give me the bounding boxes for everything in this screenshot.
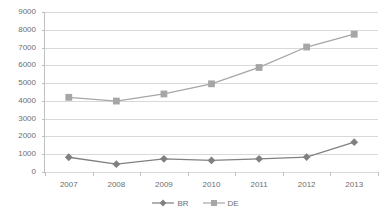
axes bbox=[42, 12, 379, 176]
series-de bbox=[65, 31, 357, 105]
data-point[interactable] bbox=[161, 91, 168, 98]
x-tick-label: 2013 bbox=[334, 181, 374, 189]
y-tick-label: 8000 bbox=[2, 26, 36, 34]
y-tick-label: 2000 bbox=[2, 132, 36, 140]
data-point[interactable] bbox=[208, 157, 216, 165]
legend-label-br: BR bbox=[177, 199, 188, 208]
y-tick-label: 4000 bbox=[2, 97, 36, 105]
data-point[interactable] bbox=[351, 31, 358, 38]
legend-entry-de[interactable]: DE bbox=[203, 198, 239, 208]
x-tick-label: 2011 bbox=[239, 181, 279, 189]
data-point[interactable] bbox=[65, 94, 72, 101]
legend-entry-br[interactable]: BR bbox=[152, 198, 188, 208]
legend-marker-br bbox=[152, 198, 174, 208]
gridlines bbox=[45, 13, 378, 173]
y-tick-label: 1000 bbox=[2, 150, 36, 158]
x-tick-label: 2012 bbox=[287, 181, 327, 189]
data-point[interactable] bbox=[255, 155, 263, 163]
legend-marker-de bbox=[203, 198, 225, 208]
data-point[interactable] bbox=[303, 44, 310, 51]
line-chart: 0100020003000400050006000700080009000 20… bbox=[0, 0, 391, 220]
y-tick-label: 7000 bbox=[2, 44, 36, 52]
y-tick-label: 3000 bbox=[2, 115, 36, 123]
series-br bbox=[65, 138, 358, 168]
data-point[interactable] bbox=[112, 160, 120, 168]
x-tick-label: 2007 bbox=[49, 181, 89, 189]
y-tick-label: 0 bbox=[2, 168, 36, 176]
data-point[interactable] bbox=[113, 98, 120, 105]
series-layer bbox=[65, 31, 358, 168]
x-tick-label: 2010 bbox=[192, 181, 232, 189]
chart-legend: BR DE bbox=[0, 198, 391, 208]
data-point[interactable] bbox=[208, 80, 215, 87]
x-tick-label: 2008 bbox=[96, 181, 136, 189]
y-tick-label: 9000 bbox=[2, 8, 36, 16]
y-tick-label: 6000 bbox=[2, 61, 36, 69]
legend-label-de: DE bbox=[228, 199, 239, 208]
data-point[interactable] bbox=[256, 64, 263, 71]
data-point[interactable] bbox=[160, 155, 168, 163]
x-tick-label: 2009 bbox=[144, 181, 184, 189]
y-tick-label: 5000 bbox=[2, 79, 36, 87]
data-point[interactable] bbox=[350, 138, 358, 146]
series-line bbox=[69, 34, 354, 101]
